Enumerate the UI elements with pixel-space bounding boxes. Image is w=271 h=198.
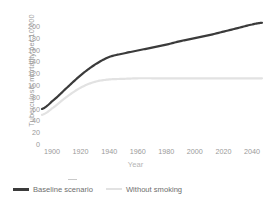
- series-line-without-smoking: [42, 78, 262, 115]
- x-axis-tick-2040: 2040: [235, 147, 269, 156]
- legend-item-baseline-scenario[interactable]: Baseline scenario: [13, 185, 93, 194]
- legend-label: Baseline scenario: [33, 185, 93, 194]
- legend-label: Without smoking: [126, 185, 182, 194]
- legend-divider: [68, 179, 77, 180]
- legend-item-without-smoking[interactable]: Without smoking: [106, 185, 182, 194]
- x-axis-tick-labels: 19001920194019601980200020202040: [0, 147, 271, 159]
- legend-swatch-icon: [106, 188, 122, 190]
- series-line-baseline-scenario: [42, 23, 262, 109]
- chart-legend: Baseline scenarioWithout smoking: [0, 182, 271, 196]
- tuberculosis-mortality-line-chart: Tuberculosis mortality per 10,000 200180…: [0, 0, 271, 198]
- x-axis-title: Year: [0, 160, 271, 169]
- legend-swatch-icon: [13, 188, 29, 191]
